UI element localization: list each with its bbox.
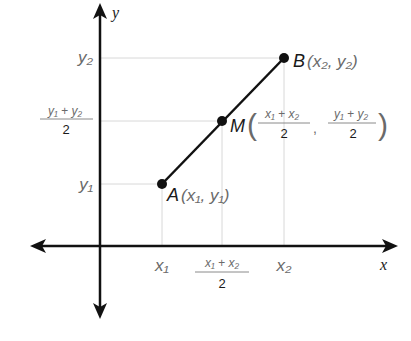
x-tick-labels: x₁ x₁ + x₂ 2 x₂	[154, 256, 292, 291]
svg-text:M: M	[230, 116, 245, 136]
svg-text:(x₁, y₁): (x₁, y₁)	[181, 186, 230, 205]
x-axis	[30, 239, 398, 253]
ymid-denominator: 2	[62, 122, 69, 137]
y1-label: y₁	[78, 175, 93, 194]
point-M	[217, 116, 227, 126]
svg-text:x₁ + x₂: x₁ + x₂	[264, 107, 299, 121]
svg-text:y₁ + y₂: y₁ + y₂	[333, 107, 368, 121]
svg-text:A: A	[166, 185, 179, 205]
point-A-label: A (x₁, y₁)	[166, 185, 230, 205]
svg-text:(x₂, y₂): (x₂, y₂)	[307, 52, 358, 71]
svg-text:(: (	[247, 108, 257, 141]
y-axis	[93, 3, 107, 319]
svg-text:2: 2	[280, 126, 287, 141]
y2-label: y₂	[77, 48, 94, 67]
x-axis-label: x	[379, 256, 387, 273]
point-B-label: B (x₂, y₂)	[293, 51, 358, 71]
svg-text:B: B	[293, 51, 305, 71]
svg-text:): )	[378, 108, 388, 141]
point-A	[157, 179, 167, 189]
ymid-numerator: y₁ + y₂	[47, 104, 82, 118]
point-B	[279, 53, 289, 63]
y-axis-label: y	[110, 4, 120, 22]
coordinate-diagram: y x B (x₂, y₂) A (x₁, y₁) M ( x₁ + x₂ 2 …	[0, 0, 411, 341]
y-tick-labels: y₂ y₁ + y₂ 2 y₁	[40, 48, 94, 194]
x1-label: x₁	[154, 256, 169, 275]
x2-label: x₂	[276, 256, 293, 275]
xmid-denominator: 2	[218, 276, 225, 291]
svg-text:,: ,	[313, 120, 317, 136]
point-M-label: M ( x₁ + x₂ 2 , y₁ + y₂ 2 )	[230, 107, 388, 141]
xmid-numerator: x₁ + x₂	[204, 256, 239, 270]
svg-text:2: 2	[349, 126, 356, 141]
